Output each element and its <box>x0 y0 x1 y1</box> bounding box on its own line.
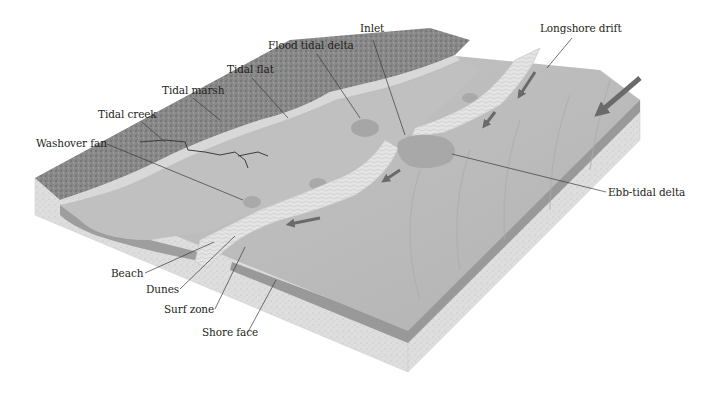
label-longshore-drift: Longshore drift <box>540 22 622 34</box>
label-tidal-flat: Tidal flat <box>227 63 274 75</box>
washover-fan-lobe <box>243 196 261 208</box>
barrier-island-diagram: Inlet Longshore drift Flood tidal delta … <box>0 0 714 398</box>
block-diagram-illustration <box>0 0 714 398</box>
label-inlet: Inlet <box>360 22 384 34</box>
ebb-tidal-delta <box>398 135 455 168</box>
label-tidal-creek: Tidal creek <box>98 108 157 120</box>
label-flood-tidal-delta: Flood tidal delta <box>268 39 354 51</box>
label-surf-zone: Surf zone <box>164 303 214 315</box>
label-beach: Beach <box>111 267 143 279</box>
label-washover-fan: Washover fan <box>36 137 107 149</box>
label-ebb-tidal-delta: Ebb-tidal delta <box>608 186 685 198</box>
label-tidal-marsh: Tidal marsh <box>162 84 224 96</box>
flood-tidal-delta <box>351 119 379 137</box>
label-shore-face: Shore face <box>202 326 258 338</box>
label-dunes: Dunes <box>146 283 179 295</box>
leader-longshore-drift <box>547 38 572 68</box>
